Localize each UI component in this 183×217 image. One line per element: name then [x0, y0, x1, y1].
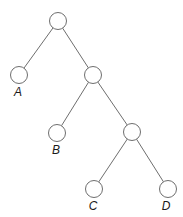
node-n3: [124, 124, 141, 141]
edge-root-A: [24, 28, 53, 68]
node-D: [160, 181, 177, 198]
node-A: [11, 67, 28, 84]
node-label-D: D: [162, 199, 171, 213]
tree-nodes: [11, 13, 177, 198]
tree-edges: [24, 28, 163, 182]
node-label-C: C: [89, 199, 98, 213]
node-n2: [85, 67, 102, 84]
edge-n3-D: [137, 139, 164, 182]
tree-diagram: ABCD: [0, 0, 183, 217]
edge-root-n2: [63, 28, 89, 68]
edge-n3-C: [99, 139, 128, 182]
node-label-B: B: [52, 143, 60, 157]
node-C: [86, 181, 103, 198]
edge-n2-n3: [98, 82, 127, 125]
node-root: [50, 13, 67, 30]
node-label-A: A: [13, 85, 22, 99]
node-B: [49, 125, 66, 142]
edge-n2-B: [61, 82, 88, 126]
